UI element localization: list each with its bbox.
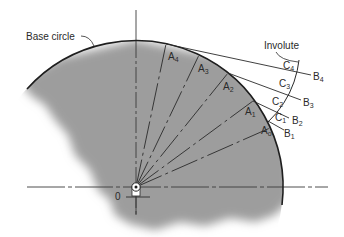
base-circle-label: Base circle <box>26 31 75 42</box>
involute-label: Involute <box>264 40 299 51</box>
gear-body-shading <box>20 40 290 230</box>
base-circle-leader <box>81 36 94 46</box>
label-c1: C1 <box>275 112 286 124</box>
involute-diagram: Base circle Involute 0 A4 A3 A2 A1 Ao B4… <box>0 0 344 237</box>
label-b2: B2 <box>292 115 303 127</box>
label-b4: B4 <box>313 71 324 83</box>
label-c2: C2 <box>272 96 283 108</box>
label-b3: B3 <box>303 97 314 109</box>
label-b1: B1 <box>284 128 295 140</box>
label-c4: C4 <box>283 60 294 72</box>
origin-label: 0 <box>115 191 121 202</box>
label-c3: C3 <box>279 78 290 90</box>
